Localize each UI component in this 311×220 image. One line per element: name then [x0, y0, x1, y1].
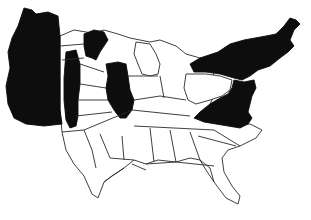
region-northeast [190, 18, 300, 80]
region-west-coast [6, 8, 62, 126]
us-cartogram-map [0, 0, 311, 220]
region-interior-west-strip [64, 50, 80, 128]
map-svg [0, 0, 311, 220]
